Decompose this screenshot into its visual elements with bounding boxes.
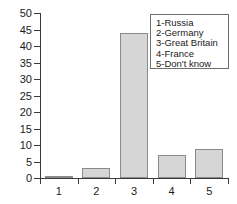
bar (45, 176, 73, 178)
legend: 1-Russia2-Germany3-Great Britain4-France… (150, 14, 229, 69)
legend-entry-list: 1-Russia2-Germany3-Great Britain4-France… (156, 18, 228, 69)
y-axis-tick-label: 10 (0, 140, 32, 151)
x-axis-tick (40, 179, 41, 184)
y-axis-tick-label: 15 (0, 123, 32, 134)
y-axis-tick-label: 30 (0, 74, 32, 85)
y-axis-tick-label: 50 (0, 8, 32, 19)
y-axis-tick-label: 40 (0, 41, 32, 52)
bar (158, 155, 186, 178)
legend-entry: 5-Don't know (156, 59, 228, 69)
x-axis-tick (153, 179, 154, 184)
bar (82, 168, 110, 178)
bar-chart-figure: 05101520253035404550 12345 1-Russia2-Ger… (0, 0, 237, 204)
x-axis-tick (190, 179, 191, 184)
x-axis-tick-label: 1 (39, 186, 79, 197)
x-axis-tick-label: 4 (152, 186, 192, 197)
x-axis-tick (115, 179, 116, 184)
y-axis-tick-label: 0 (0, 173, 32, 184)
x-axis-tick-label: 5 (189, 186, 229, 197)
x-axis-tick-label: 2 (76, 186, 116, 197)
y-axis-tick-label: 45 (0, 24, 32, 35)
x-axis-tick-label: 3 (114, 186, 154, 197)
x-axis-line (40, 178, 229, 179)
y-axis-tick-label: 25 (0, 90, 32, 101)
bar (120, 33, 148, 178)
y-axis-tick-label: 5 (0, 156, 32, 167)
x-axis-tick (78, 179, 79, 184)
y-axis-tick-label: 20 (0, 107, 32, 118)
bar (195, 149, 223, 178)
x-axis-tick (228, 179, 229, 184)
y-axis-tick-label: 35 (0, 57, 32, 68)
